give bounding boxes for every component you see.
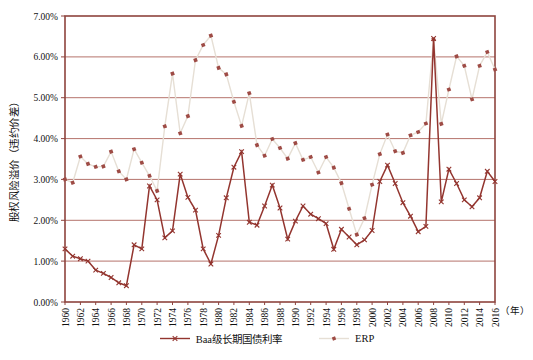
erp-marker [301, 157, 306, 162]
erp-marker [439, 122, 444, 127]
x-tick-label: 1970 [137, 308, 147, 327]
x-tick-label: 1974 [168, 308, 178, 327]
erp-marker [408, 133, 413, 138]
erp-marker [186, 114, 191, 119]
x-tick-label: 1998 [352, 308, 362, 327]
erp-marker [447, 87, 452, 92]
x-tick-label: 1966 [107, 308, 117, 327]
erp-marker [93, 164, 98, 169]
erp-marker [70, 180, 75, 185]
x-tick-label: 1990 [291, 308, 301, 327]
baa-marker [347, 235, 352, 240]
x-tick-label: 2006 [414, 308, 424, 327]
x-tick-label: 1992 [306, 308, 316, 327]
erp-marker [370, 182, 375, 187]
x-tick-label: 1960 [61, 308, 71, 327]
legend-item-erp: ERP [318, 333, 374, 344]
x-tick-label: 1978 [199, 308, 209, 327]
y-tick-label: 0.00% [33, 298, 58, 308]
x-tick-label: 1964 [91, 308, 101, 327]
baa-marker [355, 243, 360, 248]
x-tick-label: 2008 [429, 308, 439, 327]
y-tick-label: 7.00% [33, 12, 58, 22]
erp-marker [493, 67, 498, 72]
baa-marker [308, 212, 313, 217]
x-tick-label: 1982 [229, 308, 239, 327]
x-tick-label: 1996 [337, 308, 347, 327]
plot-border [65, 16, 495, 302]
x-tick-label: 1968 [122, 308, 132, 327]
x-tick-label: 2016 [491, 308, 501, 327]
baa-marker [109, 275, 114, 280]
x-tick-label: 1994 [322, 308, 332, 327]
erp-marker [193, 58, 198, 63]
erp-marker [239, 124, 244, 129]
baa-marker [362, 238, 367, 243]
plot-area: 0.00%1.00%2.00%3.00%4.00%5.00%6.00%7.00%… [0, 0, 533, 360]
x-axis-unit-label: （年） [500, 303, 530, 317]
x-tick-label: 1972 [153, 308, 163, 327]
erp-marker [385, 132, 390, 137]
x-tick-label: 2014 [475, 308, 485, 327]
erp-marker [293, 141, 298, 146]
y-tick-label: 6.00% [33, 52, 58, 62]
y-tick-label: 5.00% [33, 93, 58, 103]
x-tick-label: 2002 [383, 308, 393, 327]
erp-marker [308, 155, 313, 160]
erp-marker [354, 232, 359, 237]
erp-marker [232, 99, 237, 104]
erp-marker [155, 189, 160, 194]
erp-line-sample-icon [318, 334, 350, 343]
erp-marker [63, 177, 68, 182]
y-tick-label: 1.00% [33, 257, 58, 267]
y-tick-label: 2.00% [33, 216, 58, 226]
x-tick-label: 1988 [276, 308, 286, 327]
erp-marker [347, 206, 352, 211]
erp-marker [377, 152, 382, 157]
x-tick-label: 1962 [76, 308, 86, 327]
y-tick-label: 3.00% [33, 175, 58, 185]
erp-default-spread-chart: 股权风险溢价（违约价差） 0.00%1.00%2.00%3.00%4.00%5.… [0, 0, 533, 360]
x-tick-label: 1980 [214, 308, 224, 327]
baa-marker [470, 205, 475, 210]
x-tick-label: 2004 [398, 308, 408, 327]
baa-line-sample-icon [159, 334, 191, 343]
erp-marker [162, 124, 167, 129]
erp-marker [170, 71, 175, 76]
erp-marker [401, 151, 406, 156]
y-tick-label: 4.00% [33, 134, 58, 144]
legend-item-baa: Baa级长期国债利率 [159, 331, 282, 346]
erp-marker [339, 181, 344, 186]
erp-marker [316, 170, 321, 175]
erp-marker [247, 91, 252, 96]
x-tick-label: 2012 [460, 308, 470, 327]
x-tick-label: 2000 [368, 308, 378, 327]
legend: Baa级长期国债利率 ERP [0, 331, 533, 346]
legend-label-erp: ERP [355, 333, 374, 344]
x-tick-label: 1976 [183, 308, 193, 327]
x-tick-label: 1986 [260, 308, 270, 327]
x-tick-label: 2010 [444, 308, 454, 327]
legend-label-baa: Baa级长期国债利率 [196, 331, 282, 346]
x-tick-label: 1984 [245, 308, 255, 327]
erp-marker [178, 131, 183, 136]
erp-marker [393, 149, 398, 154]
erp-sample-marker [332, 336, 336, 340]
erp-line [65, 36, 495, 235]
